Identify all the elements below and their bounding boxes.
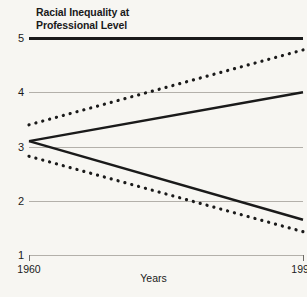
y-axis-tick-5: 5: [18, 32, 24, 44]
x-axis-label: Years: [0, 272, 307, 284]
series-line-brazil-males: [29, 92, 303, 141]
x-axis-tickmark-1996: [303, 255, 304, 261]
plot-area: 12345 19601996: [29, 38, 303, 255]
series-line-brazil-females: [29, 50, 303, 125]
gridline-1: [29, 255, 303, 256]
series-line-u-s-females: [29, 156, 303, 231]
chart-title-line-2: Professional Level: [36, 19, 186, 32]
y-axis-tick-4: 4: [18, 86, 24, 98]
chart-container: Racial Inequality at Professional Level …: [0, 0, 307, 297]
chart-title: Racial Inequality at Professional Level: [36, 6, 186, 32]
y-axis-tick-2: 2: [18, 195, 24, 207]
y-axis-tick-3: 3: [18, 141, 24, 153]
y-axis-tick-1: 1: [18, 249, 24, 261]
x-axis-tickmark-1960: [29, 255, 30, 261]
series-lines: [29, 38, 303, 255]
chart-title-line-1: Racial Inequality at: [36, 6, 186, 19]
series-line-u-s-males: [29, 141, 303, 220]
